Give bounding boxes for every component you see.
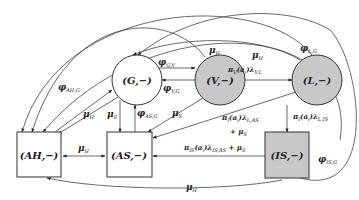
svg-text:(L,−): (L,−) xyxy=(303,75,332,87)
node-V: (V,−) xyxy=(195,55,245,105)
label-pi-LAS-plus-mu: + μS xyxy=(230,127,247,137)
edge-L-to-AH xyxy=(22,16,312,132)
label-phi-GV: φG,V xyxy=(158,57,177,68)
label-phi-AHG: φAH,G xyxy=(58,82,80,93)
label-phi-LG: φL,G xyxy=(300,43,317,54)
node-L: (L,−) xyxy=(292,55,342,105)
label-mu-H-V: μH xyxy=(209,45,221,56)
node-AS: (AS,−) xyxy=(107,132,152,177)
svg-text:(IS,−): (IS,−) xyxy=(271,150,304,162)
label-phi-VG: φV,G xyxy=(163,83,179,94)
label-mu-H-L: μH xyxy=(252,50,264,61)
label-phi-ISG: φIS,G xyxy=(318,154,337,165)
svg-text:(AH,−): (AH,−) xyxy=(20,150,59,162)
edge-IS-to-AH-bottom xyxy=(47,178,282,188)
label-mu-S-V: μS xyxy=(172,108,183,119)
label-pi-LIS: πI(ai)λL,IS xyxy=(292,112,329,122)
label-mu-H-IS: μH xyxy=(186,182,198,193)
svg-text:(V,−): (V,−) xyxy=(206,75,234,87)
label-phi-ASG: φAS,G xyxy=(137,108,158,119)
state-transition-diagram: (G,−) (V,−) (L,−) (AH,−) (AS,−) (IS,−) φ… xyxy=(0,0,359,200)
svg-text:(G,−): (G,−) xyxy=(122,75,152,87)
label-mu-H-AH-AS: μH xyxy=(78,143,90,154)
label-pi-ISAS: πIS(ai)λIS,AS + μS xyxy=(183,143,246,153)
label-pi-LAS: πI(ai)λL,AS xyxy=(221,113,259,123)
label-pi-VL: πV(ai)λV,L xyxy=(227,65,263,75)
label-mu-S-G: μS xyxy=(107,109,118,120)
node-AH: (AH,−) xyxy=(17,132,61,177)
node-IS: (IS,−) xyxy=(265,132,309,178)
svg-text:(AS,−): (AS,−) xyxy=(111,150,147,162)
label-mu-H-G: μH xyxy=(83,109,95,120)
node-G: (G,−) xyxy=(112,55,162,105)
